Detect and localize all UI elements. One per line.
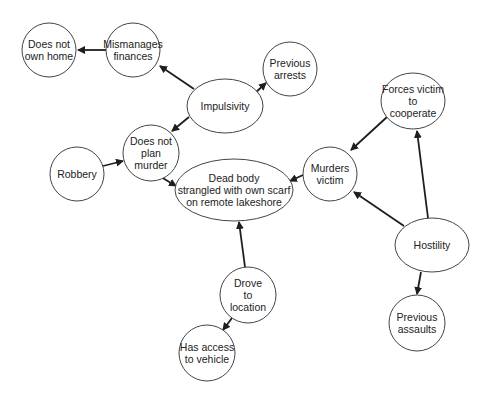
node-impulsivity [187, 79, 263, 133]
edge-drove-to-location-to-dead-body [239, 222, 245, 267]
edge-hostility-to-previous-assaults [417, 272, 421, 294]
node-drove-to-location [220, 267, 276, 323]
node-does-not-own-home [22, 23, 76, 77]
nodes-layer [22, 23, 469, 381]
edge-impulsivity-to-does-not-plan-murder [172, 117, 189, 131]
edge-forces-victim-to-murders-victim [351, 117, 387, 150]
node-murders-victim [303, 147, 357, 201]
node-hostility [395, 218, 469, 272]
node-mismanages-finances [106, 23, 160, 77]
node-previous-assaults [389, 295, 445, 351]
edge-impulsivity-to-mismanages-finances [160, 66, 194, 89]
edge-hostility-to-murders-victim [354, 192, 404, 226]
diagram-canvas [0, 0, 491, 396]
node-has-access-vehicle [179, 325, 235, 381]
node-does-not-plan-murder [123, 125, 179, 181]
node-dead-body [175, 159, 293, 221]
node-robbery [50, 147, 104, 201]
edge-hostility-to-forces-victim [417, 131, 428, 218]
edge-drove-to-location-to-has-access-vehicle [223, 318, 232, 330]
node-previous-arrests [263, 42, 317, 96]
node-forces-victim [381, 73, 445, 129]
edge-murders-victim-to-dead-body [290, 175, 303, 181]
edge-robbery-to-does-not-plan-murder [103, 161, 123, 166]
